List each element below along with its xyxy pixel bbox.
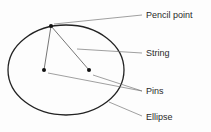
pin-left-dot (42, 68, 46, 72)
label-pins: Pins (146, 86, 164, 96)
ellipse-diagram: Pencil point String Pins Ellipse (0, 0, 211, 132)
pin-right-dot (87, 68, 91, 72)
leader-string (77, 49, 142, 53)
ellipse-shape (8, 25, 124, 115)
label-ellipse: Ellipse (146, 112, 173, 122)
leader-pencil-point (54, 15, 142, 24)
label-string: String (146, 48, 170, 58)
string-segment-left (44, 26, 51, 70)
pencil-point-dot (49, 24, 53, 28)
string-segment-right (51, 26, 89, 70)
label-pencil-point: Pencil point (146, 10, 193, 20)
leader-ellipse (109, 102, 142, 116)
